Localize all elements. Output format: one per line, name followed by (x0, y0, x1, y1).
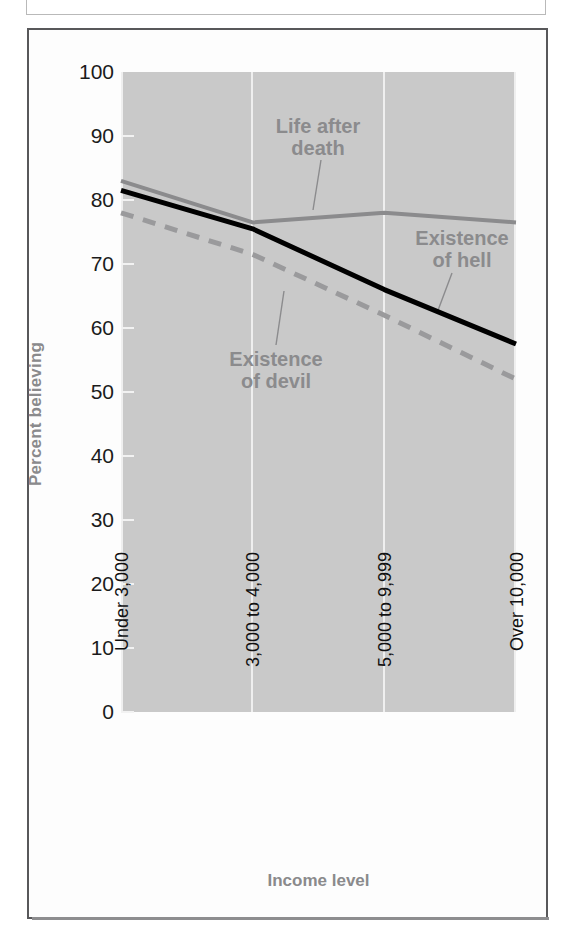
y-tick-label: 50 (74, 381, 114, 402)
y-tick-mark (121, 199, 134, 201)
y-tick-mark (121, 519, 134, 521)
y-axis-title: Percent believing (26, 319, 46, 509)
y-tick-label: 30 (74, 509, 114, 530)
y-tick-mark (121, 263, 134, 265)
x-tick-label-over-10000: Over 10,000 (507, 552, 528, 722)
y-axis-tick-labels: 100 90 80 70 60 50 40 30 20 10 0 (62, 0, 114, 931)
y-tick-label: 10 (74, 637, 114, 658)
annotation-life-after-death: Life after death (248, 116, 388, 159)
y-tick-label: 80 (74, 189, 114, 210)
y-tick-label: 100 (74, 61, 114, 82)
y-tick-label: 40 (74, 445, 114, 466)
x-tick-label-5000-to-9999: 5,000 to 9,999 (375, 552, 396, 722)
x-axis-title: Income level (121, 871, 516, 891)
annotation-existence-of-hell: Existence of hell (392, 228, 532, 271)
y-tick-mark (121, 135, 134, 137)
y-tick-label: 0 (74, 701, 114, 722)
y-tick-label: 20 (74, 573, 114, 594)
annotation-existence-of-devil: Existence of devil (196, 349, 356, 392)
y-tick-label: 90 (74, 125, 114, 146)
x-tick-label-3000-to-4000: 3,000 to 4,000 (243, 552, 264, 722)
x-tick-label-under-3000: Under 3,000 (112, 552, 133, 722)
y-tick-mark (121, 391, 134, 393)
y-tick-label: 70 (74, 253, 114, 274)
y-tick-mark (121, 327, 134, 329)
y-tick-mark (121, 455, 134, 457)
y-tick-label: 60 (74, 317, 114, 338)
